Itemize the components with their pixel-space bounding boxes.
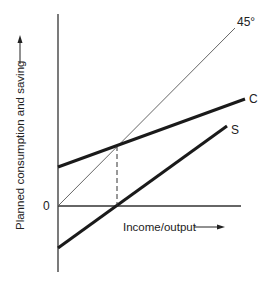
x-axis-label: Income/output [123,221,197,233]
consumption-label: C [249,92,258,106]
consumption-saving-diagram: 45° C S 0 Income/output Planned consumpt… [0,0,268,284]
y-axis-label: Planned consumption and saving [14,61,26,230]
saving-label: S [231,123,239,137]
y-axis-arrow-icon [18,35,23,64]
origin-label: 0 [43,199,50,213]
reference-45-label: 45° [237,15,255,29]
x-axis-arrow-icon [194,225,225,230]
reference-45-line [58,28,235,206]
